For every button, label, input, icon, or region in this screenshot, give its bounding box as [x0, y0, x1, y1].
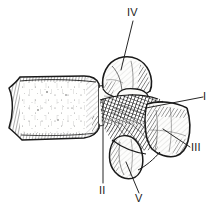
label-IV: IV: [127, 7, 138, 18]
label-III: III: [191, 142, 201, 153]
label-II: II: [99, 185, 106, 196]
anatomy-figure: I II III IV V: [0, 0, 214, 211]
spinous-process: [142, 100, 194, 160]
label-V: V: [135, 193, 143, 204]
vertebral-body: [0, 60, 115, 160]
label-I: I: [203, 91, 206, 102]
vertebra-illustration: [0, 0, 214, 211]
